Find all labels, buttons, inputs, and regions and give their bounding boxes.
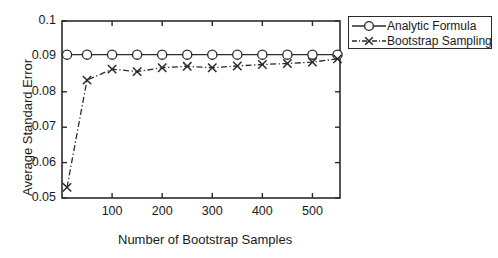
axes-frame [62,21,340,198]
legend-entry-analytic-formula[interactable]: Analytic Formula [351,18,476,33]
legend-label-bootstrap-sampling: Bootstrap Sampling [387,34,492,48]
y-tick-label: 0.09 [10,48,56,62]
data-point-marker [107,50,116,59]
y-tick-label: 0.05 [10,190,56,204]
data-point-marker [83,76,91,84]
x-marker-icon [351,34,387,48]
data-point-marker [133,50,142,59]
chart-figure: Average Standard Error Number of Bootstr… [0,0,498,258]
data-point-marker [208,50,217,59]
data-point-marker [233,50,242,59]
y-tick-label: 0.1 [10,13,56,27]
y-tick-label: 0.06 [10,155,56,169]
data-point-marker [82,50,91,59]
chart-legend[interactable]: Analytic Formula Bootstrap Sampling [348,16,492,49]
series-line-x [67,59,338,188]
data-point-marker [283,50,292,59]
y-tick-label: 0.08 [10,84,56,98]
tick-marks [62,21,340,198]
data-point-marker [183,50,192,59]
legend-label-analytic-formula: Analytic Formula [387,19,476,33]
data-point-marker [258,50,267,59]
x-tick-label: 300 [192,204,232,218]
x-tick-label: 500 [292,204,332,218]
x-tick-label: 400 [242,204,282,218]
y-tick-label: 0.07 [10,119,56,133]
x-tick-label: 200 [142,204,182,218]
x-tick-label: 100 [92,204,132,218]
data-point-marker [158,50,167,59]
data-series-layer [62,50,342,192]
data-point-marker [62,50,71,59]
circle-marker-icon [351,19,387,33]
legend-entry-bootstrap-sampling[interactable]: Bootstrap Sampling [351,33,492,48]
x-axis-label: Number of Bootstrap Samples [118,232,292,247]
